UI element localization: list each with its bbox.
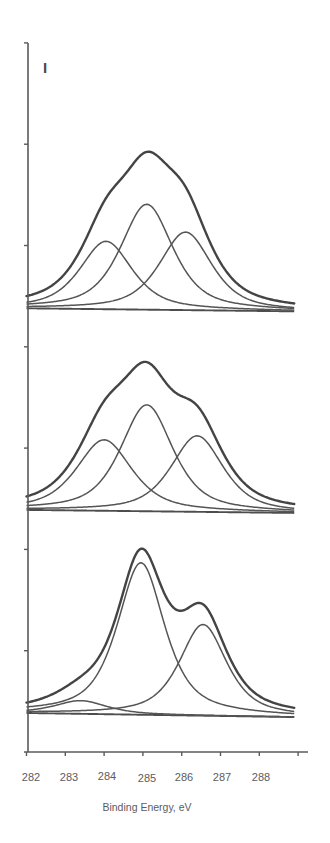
x-tick-label: 288 xyxy=(252,771,270,783)
x-tick-label: 282 xyxy=(22,771,40,783)
panel-label: I xyxy=(43,59,47,76)
x-tick-label: 285 xyxy=(138,772,156,784)
x-tick-label: 286 xyxy=(175,771,193,783)
xps-chart: 282 283 284 285 286 287 288 Binding Ener… xyxy=(0,0,330,843)
x-tick-label: 283 xyxy=(60,771,78,783)
x-tick-label: 284 xyxy=(98,770,116,782)
x-axis-title: Binding Energy, eV xyxy=(102,801,191,813)
x-tick-label: 287 xyxy=(213,771,231,783)
